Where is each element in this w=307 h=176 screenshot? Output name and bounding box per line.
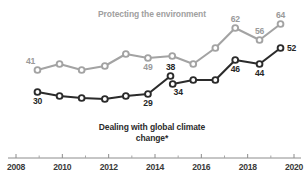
- data-point-marker: [145, 55, 151, 61]
- data-point-marker: [79, 95, 85, 101]
- data-point-marker: [123, 93, 129, 99]
- data-point-marker: [102, 96, 108, 102]
- data-point-marker: [169, 53, 175, 59]
- environment-series-label: Protecting the environment: [98, 9, 206, 19]
- data-point-marker: [212, 45, 218, 51]
- data-value-labels: 414962566430293834464452: [26, 10, 297, 109]
- data-point-marker: [35, 89, 41, 95]
- series-line: [173, 48, 281, 84]
- data-point-label: 38: [166, 62, 176, 72]
- series-line: [37, 24, 280, 70]
- data-point-label: 44: [255, 68, 265, 78]
- data-point-marker: [232, 57, 238, 63]
- data-point-label: 52: [287, 43, 297, 53]
- x-axis: [8, 154, 301, 158]
- data-point-marker: [278, 45, 284, 51]
- x-axis-tick-label: 2020: [285, 162, 303, 172]
- data-point-marker: [35, 67, 41, 73]
- data-point-marker: [102, 63, 108, 69]
- data-point-label: 34: [174, 87, 184, 97]
- data-point-label: 62: [231, 14, 241, 24]
- x-axis-tick-label: 2010: [53, 162, 71, 172]
- data-point-label: 29: [143, 98, 153, 108]
- data-point-marker: [145, 91, 151, 97]
- data-point-marker: [190, 61, 196, 67]
- x-axis-tick-label: 2014: [146, 162, 164, 172]
- data-point-label: 46: [231, 64, 241, 74]
- climate-series-label-line2: change*: [136, 133, 169, 143]
- data-point-marker: [257, 37, 263, 43]
- data-point-marker: [79, 67, 85, 73]
- data-point-marker: [190, 77, 196, 83]
- data-point-label: 64: [276, 10, 286, 20]
- x-axis-tick-label: 2008: [7, 162, 25, 172]
- climate-series-label-line1: Dealing with global climate: [99, 122, 206, 132]
- data-point-marker: [232, 25, 238, 31]
- data-point-label: 56: [255, 26, 265, 36]
- data-point-marker: [278, 21, 284, 27]
- data-point-label: 30: [33, 96, 43, 106]
- series-climate-change: [35, 45, 284, 102]
- data-point-marker: [168, 73, 174, 79]
- data-point-marker: [57, 93, 63, 99]
- x-axis-tick-label: 2016: [192, 162, 210, 172]
- data-point-marker: [123, 51, 129, 57]
- data-point-marker: [212, 77, 218, 83]
- x-axis-tick-labels: 2008201020122014201620182020: [7, 162, 303, 172]
- line-chart: Protecting the environment Dealing with …: [0, 0, 307, 176]
- data-point-marker: [57, 61, 63, 67]
- x-axis-tick-label: 2018: [239, 162, 257, 172]
- x-axis-tick-label: 2012: [100, 162, 118, 172]
- data-point-label: 49: [143, 62, 153, 72]
- data-point-marker: [257, 61, 263, 67]
- data-point-label: 41: [26, 56, 36, 66]
- series-environment: [35, 21, 284, 73]
